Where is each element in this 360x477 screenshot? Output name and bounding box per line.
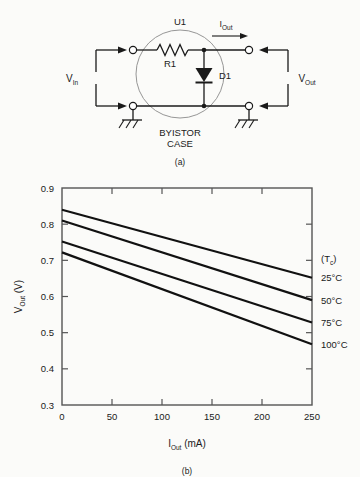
y-tick-label: 0.9 — [41, 183, 54, 194]
output-top-arrowhead — [259, 47, 268, 54]
input-voltage-label: VIn — [66, 73, 78, 86]
ground-left-hatch-1 — [119, 120, 124, 128]
case-label-line2: CASE — [167, 138, 193, 149]
legend-title: (Tc) — [321, 253, 336, 266]
y-tick-label: 0.6 — [41, 291, 54, 302]
input-top-arrowhead — [118, 47, 127, 54]
output-bottom-arrowhead — [259, 103, 268, 110]
y-tick-label: 0.7 — [41, 255, 54, 266]
diode-d1-triangle — [196, 68, 213, 82]
legend-label-25C: 25°C — [321, 272, 342, 283]
terminal-top-right — [245, 46, 252, 53]
series-line-50C — [62, 221, 312, 301]
ground-right-hatch-1 — [235, 120, 240, 128]
ground-left-hatch-2 — [126, 120, 131, 128]
x-tick-label: 100 — [154, 411, 170, 422]
legend-label-50C: 50°C — [321, 295, 342, 306]
ground-right-hatch-2 — [242, 120, 247, 128]
characteristic-chart-figure: 0.30.40.50.60.70.80.9050100150200250(Tc)… — [0, 172, 360, 477]
output-voltage-label: VOut — [298, 73, 315, 86]
terminal-bottom-left — [129, 102, 136, 109]
current-out-arrowhead — [240, 33, 248, 39]
chart-plot-area: 0.30.40.50.60.70.80.9050100150200250(Tc)… — [13, 183, 348, 477]
terminal-top-left — [129, 46, 136, 53]
y-tick-label: 0.5 — [41, 327, 54, 338]
x-axis-title: IOut (mA) — [168, 438, 206, 451]
resistor-r1-symbol — [157, 45, 188, 56]
terminal-bottom-right — [245, 102, 252, 109]
resistor-label-r1: R1 — [164, 58, 176, 69]
device-label-u1: U1 — [174, 16, 186, 27]
x-tick-label: 0 — [59, 411, 64, 422]
input-bottom-arrowhead — [118, 103, 127, 110]
circuit-svg: U1 R1 — [0, 0, 360, 172]
figure-a-caption: (a) — [175, 157, 186, 167]
y-tick-label: 0.3 — [41, 400, 54, 411]
x-tick-label: 150 — [204, 411, 220, 422]
y-tick-label: 0.4 — [41, 363, 54, 374]
ground-left-hatch-3 — [133, 120, 138, 128]
series-line-100C — [62, 252, 312, 344]
circuit-diagram-figure: U1 R1 — [0, 0, 360, 172]
x-tick-label: 50 — [107, 411, 118, 422]
current-out-label: IOut — [220, 19, 233, 31]
x-tick-label: 200 — [254, 411, 270, 422]
legend-label-75C: 75°C — [321, 317, 342, 328]
legend-label-100C: 100°C — [321, 339, 348, 350]
series-line-25C — [62, 210, 312, 278]
diode-label-d1: D1 — [219, 70, 231, 81]
chart-svg: 0.30.40.50.60.70.80.9050100150200250(Tc)… — [0, 172, 360, 477]
case-label-line1: BYISTOR — [159, 127, 201, 138]
x-tick-label: 250 — [304, 411, 320, 422]
figure-b-caption: (b) — [182, 466, 193, 476]
series-line-75C — [62, 242, 312, 323]
figure-page: U1 R1 — [0, 0, 360, 477]
ground-right-hatch-3 — [249, 120, 254, 128]
y-axis-title: VOut (V) — [13, 280, 26, 313]
y-tick-label: 0.8 — [41, 219, 54, 230]
